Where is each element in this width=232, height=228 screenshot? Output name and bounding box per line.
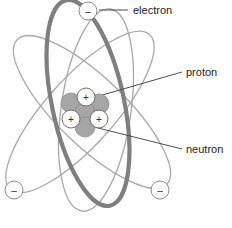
proton-right: + bbox=[90, 110, 108, 128]
electron-bottom-right-sign: – bbox=[157, 185, 163, 196]
proton-left: + bbox=[62, 110, 80, 128]
proton-top-sign: + bbox=[83, 92, 89, 103]
label-proton: proton bbox=[186, 66, 217, 78]
electron-bottom-left-sign: – bbox=[11, 185, 17, 196]
label-group: electron proton neutron bbox=[133, 4, 223, 155]
atom-canvas: + + + – – – bbox=[0, 0, 232, 228]
electron-bottom-right: – bbox=[151, 181, 169, 199]
proton-right-sign: + bbox=[96, 114, 102, 125]
leader-line-neutron bbox=[90, 126, 182, 149]
proton-top: + bbox=[77, 88, 95, 106]
proton-left-sign: + bbox=[68, 114, 74, 125]
leader-line-proton bbox=[92, 72, 182, 98]
electron-bottom-left: – bbox=[5, 181, 23, 199]
atom-structure-diagram: + + + – – – bbox=[0, 0, 232, 228]
label-neutron: neutron bbox=[186, 143, 223, 155]
electron-top-sign: – bbox=[85, 6, 91, 17]
label-electron: electron bbox=[133, 4, 172, 16]
electron-top: – bbox=[79, 2, 97, 20]
